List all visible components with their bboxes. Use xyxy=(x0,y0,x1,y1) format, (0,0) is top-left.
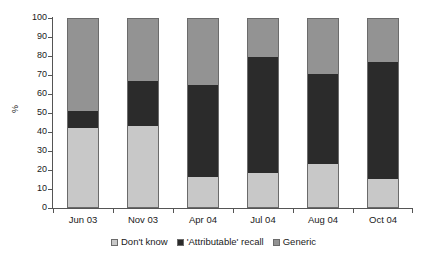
stacked-bar[interactable] xyxy=(127,18,159,208)
stacked-bar-chart: % 0102030405060708090100 Jun 03Nov 03Apr… xyxy=(0,0,427,256)
bar-segment[interactable] xyxy=(308,19,338,74)
bar-segment[interactable] xyxy=(188,177,218,207)
bar-segment[interactable] xyxy=(248,57,278,174)
x-axis-tick-label: Jun 03 xyxy=(53,214,113,226)
bar-segment[interactable] xyxy=(368,19,398,62)
chart-legend: Don't know'Attributable' recallGeneric xyxy=(0,236,427,248)
x-axis-tick-mark xyxy=(412,209,413,213)
x-axis-tick-label: Jul 04 xyxy=(233,214,293,226)
legend-item[interactable]: Don't know xyxy=(111,236,168,248)
stacked-bar[interactable] xyxy=(367,18,399,208)
bar-segment[interactable] xyxy=(68,19,98,111)
y-axis-tick-label: 70 xyxy=(37,69,47,80)
y-axis-tick-label: 80 xyxy=(37,50,47,61)
x-axis-tick-mark xyxy=(173,209,174,213)
x-axis-tick-mark xyxy=(113,209,114,213)
x-axis-tick-label: Oct 04 xyxy=(353,214,413,226)
legend-swatch-icon xyxy=(177,239,184,246)
bar-group xyxy=(173,18,233,208)
bar-segment[interactable] xyxy=(188,19,218,85)
bar-segment[interactable] xyxy=(128,19,158,81)
y-axis-tick-label: 60 xyxy=(37,88,47,99)
stacked-bar[interactable] xyxy=(187,18,219,208)
bar-group xyxy=(293,18,353,208)
bar-group xyxy=(113,18,173,208)
bar-segment[interactable] xyxy=(128,126,158,207)
bar-segment[interactable] xyxy=(248,173,278,207)
y-axis: 0102030405060708090100 xyxy=(22,18,52,208)
bar-segment[interactable] xyxy=(68,111,98,128)
bar-segment[interactable] xyxy=(308,164,338,207)
bar-segment[interactable] xyxy=(368,179,398,207)
stacked-bar[interactable] xyxy=(307,18,339,208)
x-axis-labels: Jun 03Nov 03Apr 04Jul 04Aug 04Oct 04 xyxy=(53,214,413,228)
legend-item[interactable]: Generic xyxy=(273,236,316,248)
y-axis-tick-label: 90 xyxy=(37,31,47,42)
y-axis-tick-label: 0 xyxy=(42,202,47,213)
legend-item-label: 'Attributable' recall xyxy=(187,236,264,248)
x-axis-tick-label: Apr 04 xyxy=(173,214,233,226)
x-axis-tick-mark xyxy=(53,209,54,213)
y-axis-tick-label: 30 xyxy=(37,145,47,156)
plot-area xyxy=(53,18,413,208)
bar-segment[interactable] xyxy=(368,62,398,179)
bar-segment[interactable] xyxy=(68,128,98,207)
bar-segment[interactable] xyxy=(248,19,278,57)
x-axis-tick-label: Aug 04 xyxy=(293,214,353,226)
bar-segment[interactable] xyxy=(308,74,338,164)
y-axis-tick-label: 50 xyxy=(37,107,47,118)
legend-item-label: Don't know xyxy=(121,236,168,248)
bar-group xyxy=(233,18,293,208)
x-axis-tick-mark xyxy=(293,209,294,213)
bar-segment[interactable] xyxy=(188,85,218,177)
legend-swatch-icon xyxy=(111,239,118,246)
legend-swatch-icon xyxy=(273,239,280,246)
y-axis-tick-label: 40 xyxy=(37,126,47,137)
y-axis-tick-label: 20 xyxy=(37,164,47,175)
legend-item[interactable]: 'Attributable' recall xyxy=(177,236,264,248)
y-axis-tick-label: 100 xyxy=(32,12,47,23)
bar-group xyxy=(53,18,113,208)
y-axis-title: % xyxy=(10,102,20,116)
x-axis-tick-mark xyxy=(233,209,234,213)
x-axis-tick-mark xyxy=(353,209,354,213)
bar-segment[interactable] xyxy=(128,81,158,126)
x-axis-tick-label: Nov 03 xyxy=(113,214,173,226)
stacked-bar[interactable] xyxy=(247,18,279,208)
bar-group xyxy=(353,18,413,208)
legend-item-label: Generic xyxy=(283,236,316,248)
y-axis-tick-label: 10 xyxy=(37,183,47,194)
stacked-bar[interactable] xyxy=(67,18,99,208)
